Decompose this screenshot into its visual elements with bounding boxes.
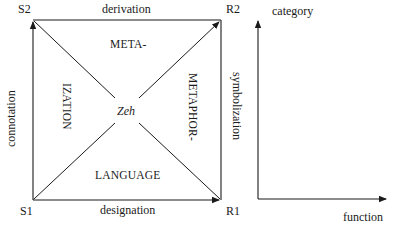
edge-label-connotation: connotation: [5, 90, 17, 147]
interior-label-meta: META-: [110, 39, 147, 51]
x-axis-label: function: [343, 211, 383, 223]
diagonal-center-r1: [139, 123, 220, 199]
interior-label-language: LANGUAGE: [95, 170, 160, 182]
corner-label-r1: R1: [226, 205, 240, 217]
diagonal-s2-center: [34, 21, 115, 98]
edge-label-symbolization: symbolization: [231, 72, 243, 140]
corner-label-s2: S2: [18, 3, 31, 15]
interior-label-metaphor: METAPHOR-: [187, 73, 199, 141]
diagonal-s1-center: [34, 123, 115, 199]
corner-label-r2: R2: [226, 3, 240, 15]
diagonal-center-r2-arrow: [139, 22, 219, 98]
corner-label-s1: S1: [20, 205, 33, 217]
edge-label-derivation: derivation: [102, 3, 151, 15]
interior-label-ization: IZATION: [61, 83, 73, 130]
center-label-zeh: Zeh: [117, 105, 135, 117]
axes: [258, 21, 386, 199]
y-axis-label: category: [272, 5, 313, 17]
edge-label-designation: designation: [100, 204, 155, 216]
